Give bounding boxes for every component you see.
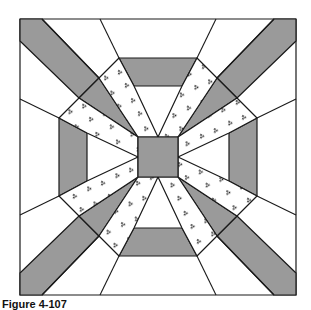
caption-label: Figure 4-107 [2,298,67,310]
figure-caption: Figure 4-107 [2,298,67,310]
block-pieces [20,19,296,295]
center-square [138,137,178,177]
